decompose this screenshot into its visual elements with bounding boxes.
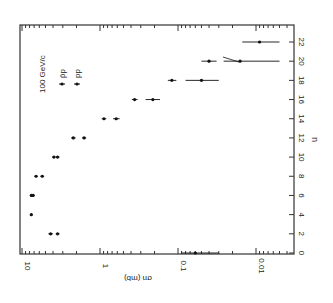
data-point — [170, 79, 173, 82]
x-tick-label: 8 — [297, 174, 306, 179]
data-point — [49, 232, 52, 235]
data-point — [72, 136, 75, 139]
data-point — [207, 60, 210, 63]
legend-pp-label: pp — [73, 69, 82, 78]
data-point — [133, 98, 136, 101]
x-tick-label: 22 — [297, 38, 306, 47]
chart: 1010.10.010246810121416182022nσn (mb)100… — [0, 0, 333, 303]
data-point — [34, 175, 37, 178]
plot-frame — [20, 25, 294, 254]
data-point — [41, 175, 44, 178]
data-point — [258, 40, 261, 43]
x-tick-label: 16 — [297, 95, 306, 104]
x-axis-title: n — [310, 137, 320, 142]
y-tick-label: 0.01 — [257, 258, 266, 274]
data-point — [102, 117, 105, 120]
data-point — [56, 232, 59, 235]
x-tick-label: 18 — [297, 76, 306, 85]
legend-pbar-label: p̄p — [58, 69, 67, 78]
y-tick-label: 10 — [23, 262, 32, 271]
data-point — [52, 155, 55, 158]
data-point — [200, 79, 203, 82]
data-point — [115, 117, 118, 120]
data-point — [238, 60, 241, 63]
x-tick-label: 12 — [297, 133, 306, 142]
x-tick-label: 4 — [297, 212, 306, 217]
x-tick-label: 14 — [297, 114, 306, 123]
data-point — [30, 213, 33, 216]
x-tick-label: 10 — [297, 153, 306, 162]
x-tick-label: 20 — [297, 57, 306, 66]
y-axis-title: σn (mb) — [124, 274, 152, 283]
x-tick-label: 0 — [297, 251, 306, 256]
data-point — [194, 251, 197, 254]
data-point — [151, 98, 154, 101]
data-point — [82, 136, 85, 139]
y-tick-label: 1 — [101, 264, 110, 269]
data-point — [56, 155, 59, 158]
energy-label: 100 GeV/c — [38, 55, 47, 93]
data-point — [32, 194, 35, 197]
y-tick-label: 0.1 — [179, 260, 188, 272]
x-tick-label: 2 — [297, 232, 306, 237]
x-tick-label: 6 — [297, 193, 306, 198]
